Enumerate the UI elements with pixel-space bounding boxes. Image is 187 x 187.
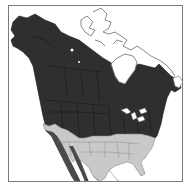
map-frame bbox=[8, 5, 183, 182]
lake-marker bbox=[78, 61, 80, 63]
range-map bbox=[9, 6, 183, 182]
breeding-range-region bbox=[11, 14, 181, 138]
arctic-islands bbox=[81, 8, 143, 50]
lake-marker bbox=[71, 49, 74, 52]
